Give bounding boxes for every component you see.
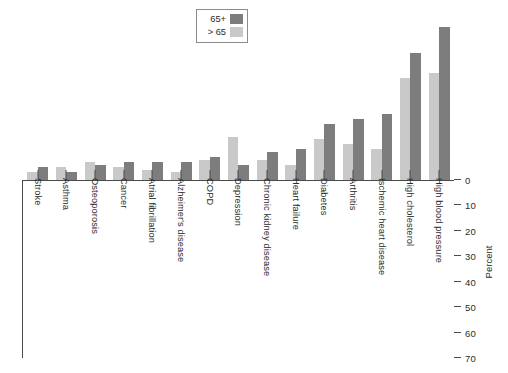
y-tick bbox=[454, 357, 461, 358]
y-tick-label: 0 bbox=[465, 175, 470, 186]
y-axis: Percent 010203040506070 bbox=[454, 180, 506, 358]
category-label: High blood pressure bbox=[434, 178, 444, 263]
category-label: Chronic kidney disease bbox=[262, 178, 272, 276]
bar bbox=[429, 73, 440, 180]
category-label: Asthma bbox=[61, 178, 71, 210]
bar bbox=[371, 150, 382, 181]
y-tick bbox=[454, 281, 461, 282]
bar bbox=[410, 53, 421, 180]
chart-figure: StrokeAsthmaOsteoporosisCancerAtrial fib… bbox=[0, 0, 508, 373]
y-tick bbox=[454, 204, 461, 205]
category-label: Depression bbox=[233, 178, 243, 226]
y-tick-label: 10 bbox=[465, 200, 476, 211]
y-tick bbox=[454, 332, 461, 333]
legend-label-65-plus: 65+ bbox=[210, 15, 226, 25]
legend-item-under-65: > 65 bbox=[201, 26, 243, 39]
y-tick bbox=[454, 179, 461, 180]
category-label: Osteoporosis bbox=[90, 178, 100, 234]
bar bbox=[314, 139, 325, 180]
category-label: Cancer bbox=[119, 178, 129, 209]
bar bbox=[343, 144, 354, 180]
legend-item-65-plus: 65+ bbox=[201, 13, 243, 26]
category-label: High cholesterol bbox=[405, 178, 415, 246]
bar bbox=[267, 152, 278, 180]
category-label: Atrial fibrillation bbox=[147, 178, 157, 243]
bar bbox=[439, 27, 450, 180]
category-label: Arthritis bbox=[348, 178, 358, 210]
bar bbox=[324, 124, 335, 180]
y-tick-label: 60 bbox=[465, 327, 476, 338]
category-label: Stroke bbox=[33, 178, 43, 205]
bar-group bbox=[425, 27, 454, 180]
legend-swatch-under-65 bbox=[230, 28, 243, 38]
bar bbox=[382, 114, 393, 180]
bar bbox=[400, 78, 411, 180]
category-label: Alzheimer's disease bbox=[176, 178, 186, 262]
bar bbox=[257, 160, 268, 180]
bar bbox=[199, 160, 210, 180]
bar bbox=[296, 150, 307, 181]
chart-legend: > 65 65+ bbox=[196, 9, 248, 43]
category-label: Heart failure bbox=[291, 178, 301, 230]
bar bbox=[228, 137, 239, 180]
legend-swatch-65-plus bbox=[230, 15, 243, 25]
bar bbox=[353, 119, 364, 180]
category-label: COPD bbox=[205, 178, 215, 205]
y-tick-label: 30 bbox=[465, 251, 476, 262]
category-label: Ischemic heart disease bbox=[377, 178, 387, 275]
bar-group bbox=[396, 53, 425, 180]
bar bbox=[210, 157, 221, 180]
y-axis-title: Percent bbox=[483, 246, 494, 279]
y-tick-label: 20 bbox=[465, 225, 476, 236]
category-label: Diabetes bbox=[319, 178, 329, 216]
y-tick-label: 50 bbox=[465, 302, 476, 313]
y-tick bbox=[454, 230, 461, 231]
y-tick bbox=[454, 306, 461, 307]
y-tick bbox=[454, 255, 461, 256]
legend-label-under-65: > 65 bbox=[208, 28, 226, 38]
y-tick-label: 70 bbox=[465, 353, 476, 364]
y-tick-label: 40 bbox=[465, 276, 476, 287]
